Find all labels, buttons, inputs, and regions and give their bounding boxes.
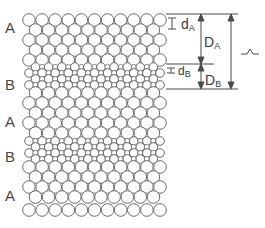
layer-a-atom xyxy=(141,204,154,217)
layer-a-atom xyxy=(56,191,69,204)
circle-layers xyxy=(23,14,167,217)
layer-a-atom xyxy=(128,204,141,217)
layer-a-atom xyxy=(154,204,167,217)
DB-label: DB xyxy=(205,73,221,89)
dA-sub: A xyxy=(189,23,195,33)
layer-a-atom xyxy=(101,204,114,217)
layer-a-atom xyxy=(82,191,95,204)
layer-a-atom xyxy=(29,191,42,204)
layer-label-b: B xyxy=(5,76,15,93)
layer-label-a: A xyxy=(5,187,15,204)
DB-main: D xyxy=(205,72,215,88)
layer-a-atom xyxy=(95,191,108,204)
layer-a-atom xyxy=(36,204,49,217)
dA-main: d xyxy=(181,16,189,32)
layer-a-atom xyxy=(147,191,160,204)
superlattice-diagram: ABABA dA DA dB DB Λ xyxy=(0,0,265,228)
period-double-arrow xyxy=(228,14,234,89)
layer-label-a: A xyxy=(5,113,15,130)
layer-a-atom xyxy=(114,204,127,217)
layer-a-atom xyxy=(75,204,88,217)
DA-label: DA xyxy=(204,35,220,51)
dB-ibar xyxy=(167,68,175,73)
dA-label: dA xyxy=(181,17,195,33)
layer-a-atom xyxy=(69,191,82,204)
dB-main: d xyxy=(178,64,185,78)
dB-sub: B xyxy=(185,69,191,79)
layer-label-b: B xyxy=(5,148,15,165)
DA-sub: A xyxy=(214,41,220,51)
layer-label-a: A xyxy=(5,19,15,36)
DB-sub: B xyxy=(215,79,221,89)
layer-a-atom xyxy=(108,191,121,204)
layer-a-atom xyxy=(62,204,75,217)
layer-a-atom xyxy=(42,191,55,204)
layer-a-atom xyxy=(88,204,101,217)
circle-packing xyxy=(0,0,265,228)
dA-ibar xyxy=(168,18,176,29)
layer-a-atom xyxy=(121,191,134,204)
DB-double-arrow xyxy=(198,64,204,89)
lambda-symbol-glyph xyxy=(241,49,259,54)
layer-a-atom xyxy=(23,204,36,217)
layer-a-atom xyxy=(134,191,147,204)
dB-label: dB xyxy=(178,65,191,79)
layer-a-atom xyxy=(49,204,62,217)
DA-main: D xyxy=(204,34,214,50)
